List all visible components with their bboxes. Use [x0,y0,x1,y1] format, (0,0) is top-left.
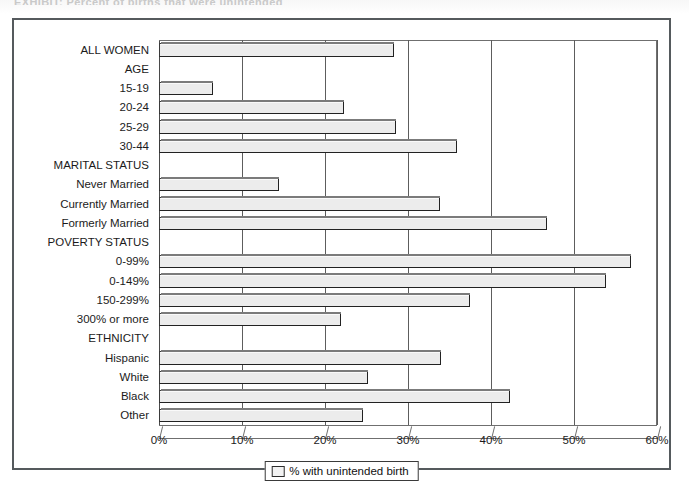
category-label-currently-married: Currently Married [60,198,149,210]
category-label-30-44: 30-44 [120,140,149,152]
plot-area [159,40,657,425]
bar-300-or-more[interactable] [159,313,341,326]
category-label-hispanic: Hispanic [105,352,149,364]
chart-legend: % with unintended birth [264,461,419,481]
bar-20-24[interactable] [159,101,344,114]
category-label-white: White [120,371,149,383]
bar-top-shadow [161,312,341,314]
bar-top-shadow [161,273,606,275]
bar-30-44[interactable] [159,140,457,153]
x-tick-label-40%: 40% [479,434,502,446]
bar-all-women[interactable] [159,43,394,56]
x-axis-top-line [159,425,657,426]
bar-top-shadow [161,293,470,295]
bar-0-99[interactable] [159,255,631,268]
chart-frame: ALL WOMENAGE15-1920-2425-2930-44MARITAL … [12,18,671,470]
bar-top-shadow [161,350,441,352]
bar-top-shadow [161,389,510,391]
category-label-0-149: 0-149% [109,275,149,287]
bar-other[interactable] [159,409,363,422]
bar-top-shadow [161,370,368,372]
category-label-black: Black [121,390,149,402]
x-tick-label-60%: 60% [645,434,668,446]
bar-white[interactable] [159,371,368,384]
category-label-all-women: ALL WOMEN [80,44,149,56]
bar-top-shadow [161,100,344,102]
bar-top-shadow [161,119,396,121]
legend-label: % with unintended birth [289,465,409,477]
bar-currently-married[interactable] [159,197,440,210]
bar-15-19[interactable] [159,82,213,95]
category-label-formerly-married: Formerly Married [61,217,149,229]
bar-top-shadow [161,139,457,141]
x-tick-label-20%: 20% [313,434,336,446]
bar-formerly-married[interactable] [159,217,547,230]
x-tick-label-50%: 50% [562,434,585,446]
bar-150-299[interactable] [159,294,470,307]
x-tick-label-0%: 0% [151,434,168,446]
category-label-25-29: 25-29 [120,121,149,133]
bar-top-shadow [161,216,547,218]
bar-top-shadow [161,408,363,410]
bar-black[interactable] [159,390,510,403]
bar-rows [159,40,657,425]
category-label-15-19: 15-19 [120,82,149,94]
category-label-150-299: 150-299% [97,294,149,306]
category-label-marital-status: MARITAL STATUS [54,159,149,171]
bar-never-married[interactable] [159,178,279,191]
bar-0-149[interactable] [159,274,606,287]
category-label-age: AGE [125,63,149,75]
category-label-20-24: 20-24 [120,101,149,113]
bar-top-shadow [161,196,440,198]
category-label-0-99: 0-99% [116,255,149,267]
category-label-300-or-more: 300% or more [77,313,149,325]
bar-top-shadow [161,81,213,83]
legend-swatch-icon [271,466,284,477]
top-caption: EXHIBIT: Percent of births that were uni… [14,0,283,5]
bar-top-shadow [161,42,394,44]
x-tick-label-30%: 30% [396,434,419,446]
bar-25-29[interactable] [159,120,396,133]
category-label-never-married: Never Married [76,178,149,190]
bar-top-shadow [161,177,279,179]
category-label-ethnicity: ETHNICITY [88,332,149,344]
bar-hispanic[interactable] [159,351,441,364]
category-label-other: Other [120,409,149,421]
x-tick-label-10%: 10% [230,434,253,446]
bar-top-shadow [161,254,631,256]
gridline-60% [657,40,658,425]
category-label-poverty-status: POVERTY STATUS [48,236,149,248]
